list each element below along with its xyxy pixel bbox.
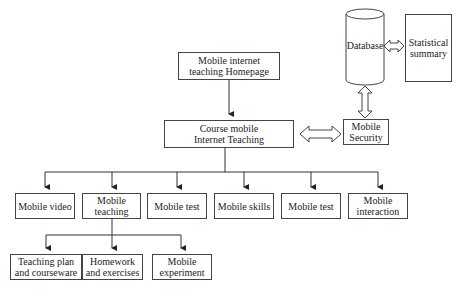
module-mobile-test: Mobile test (147, 193, 207, 219)
module-mobile-skills: Mobile skills (214, 193, 274, 219)
module-mobile-test-2: Mobile test (281, 193, 341, 219)
submodule-teaching-plan: Teaching plan and courseware (10, 254, 82, 280)
mobile-security-box: Mobile Security (343, 119, 389, 145)
module-mobile-video: Mobile video (15, 193, 75, 219)
database-label: Database (344, 40, 386, 51)
module-mobile-teaching: Mobile teaching (82, 193, 141, 219)
statistical-summary-box: Statistical summary (405, 14, 452, 82)
submodule-mobile-experiment: Mobile experiment (152, 254, 212, 280)
submodule-homework: Homework and exercises (82, 254, 143, 280)
homepage-box: Mobile internet teaching Homepage (178, 52, 280, 80)
course-box: Course mobile Internet Teaching (164, 120, 294, 148)
module-mobile-interaction: Mobile interaction (348, 193, 408, 219)
